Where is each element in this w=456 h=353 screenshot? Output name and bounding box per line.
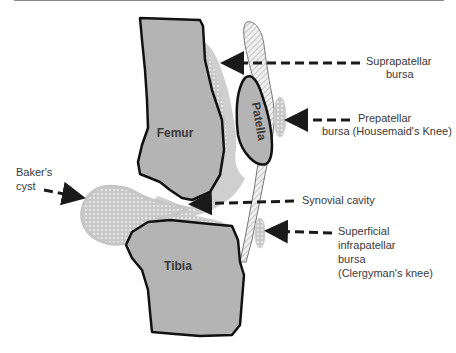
label-prepatellar-line2: bursa (Housemaid's Knee) [322, 125, 452, 138]
label-prepatellar-line1: Prepatellar [358, 112, 411, 125]
label-infrapatellar-line1: Superficial [338, 225, 389, 238]
label-synovial-cavity: Synovial cavity [302, 194, 375, 207]
arrow-infrapatellar [270, 231, 332, 233]
infrapatellar-bursa [255, 218, 265, 248]
label-suprapatellar-line2: bursa [386, 68, 414, 81]
tibia-bone [126, 220, 244, 336]
arrow-bakers-cyst [44, 190, 80, 197]
tibia-label: Tibia [164, 259, 192, 273]
label-suprapatellar-line1: Suprapatellar [366, 55, 431, 68]
femur-bone [138, 18, 224, 200]
label-bakers-line2: cyst [16, 180, 36, 193]
label-infrapatellar-line3: bursa [338, 253, 366, 266]
label-infrapatellar-line4: (Clergyman's knee) [338, 267, 433, 280]
femur-label: Femur [157, 126, 194, 140]
label-infrapatellar-line2: infrapatellar [338, 239, 395, 252]
knee-diagram: Femur Patella Tibia [0, 0, 456, 353]
prepatellar-bursa [274, 97, 286, 137]
label-bakers-line1: Baker's [16, 166, 52, 179]
